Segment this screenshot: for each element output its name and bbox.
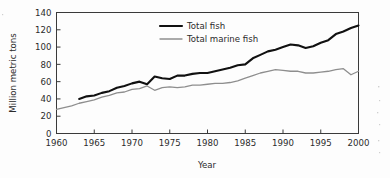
x-tick-label-1990: 1990 (272, 138, 294, 148)
y-axis-ticks (57, 13, 61, 134)
y-tick-label-20: 20 (41, 111, 52, 121)
x-tick-label-1985: 1985 (234, 138, 256, 148)
x-axis-title: Year (197, 160, 217, 170)
legend-label-total-marine-fish: Total marine fish (186, 34, 258, 44)
series-line-total-marine-fish (57, 69, 359, 110)
legend-label-total-fish: Total fish (186, 21, 225, 31)
y-tick-label-0: 0 (46, 129, 51, 139)
x-tick-label-2000: 2000 (348, 138, 370, 148)
y-tick-label-60: 60 (41, 77, 52, 87)
chart-legend: Total fishTotal marine fish (160, 21, 258, 44)
y-tick-label-80: 80 (41, 60, 52, 70)
x-tick-label-1960: 1960 (46, 138, 68, 148)
figure-canvas: 196019651970197519801985199019952000 020… (0, 0, 390, 178)
line-chart: 196019651970197519801985199019952000 020… (0, 0, 390, 178)
y-axis-tick-labels: 020406080100120140 (35, 8, 51, 139)
y-tick-label-120: 120 (35, 25, 51, 35)
x-axis-tick-labels: 196019651970197519801985199019952000 (46, 138, 370, 148)
x-tick-label-1965: 1965 (83, 138, 105, 148)
x-tick-label-1995: 1995 (310, 138, 332, 148)
x-tick-label-1980: 1980 (197, 138, 219, 148)
y-axis-title: Million metric tons (8, 33, 18, 113)
x-axis-ticks (57, 130, 359, 134)
y-tick-label-40: 40 (41, 94, 52, 104)
x-tick-label-1975: 1975 (159, 138, 181, 148)
y-tick-label-140: 140 (35, 8, 51, 18)
x-tick-label-1970: 1970 (121, 138, 143, 148)
y-tick-label-100: 100 (35, 42, 51, 52)
